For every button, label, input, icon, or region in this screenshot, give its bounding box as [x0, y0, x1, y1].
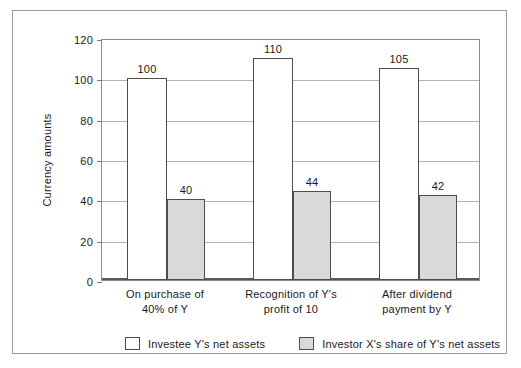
x-axis-category-line: Recognition of Y's [245, 287, 337, 302]
y-axis-tick-label: 100 [74, 74, 93, 86]
bar: 40 [167, 199, 205, 280]
x-axis-category-line: 40% of Y [126, 302, 204, 317]
y-axis-tick-label: 60 [80, 155, 93, 167]
bar: 100 [127, 78, 167, 280]
bar-value-label: 40 [180, 184, 193, 196]
y-axis-title-label: Currency amounts [41, 113, 53, 206]
x-axis-category-labels: On purchase of40% of YRecognition of Y's… [101, 287, 480, 323]
legend-swatch-icon [125, 337, 140, 350]
bar: 105 [379, 68, 419, 280]
plot-area: 020406080100120 100110105404442 [101, 39, 480, 281]
y-axis-tick [97, 282, 102, 283]
bar: 42 [419, 195, 457, 280]
figure-frame: Currency amounts 020406080100120 1001101… [12, 10, 507, 354]
y-axis-tick-label: 40 [80, 195, 93, 207]
bar-value-label: 44 [306, 176, 319, 188]
x-axis-category-label: On purchase of40% of Y [126, 287, 204, 317]
y-axis-tick-label: 20 [80, 236, 93, 248]
legend-item[interactable]: Investor X's share of Y's net assets [299, 337, 500, 350]
chart-legend: Investee Y's net assetsInvestor X's shar… [125, 337, 500, 350]
bar-value-label: 100 [138, 63, 157, 75]
y-axis-tick-label: 120 [74, 34, 93, 46]
y-axis-tick-label: 80 [80, 115, 93, 127]
x-axis-category-line: On purchase of [126, 287, 204, 302]
bar-value-label: 42 [432, 180, 445, 192]
x-axis-category-line: After dividend [382, 287, 452, 302]
x-axis-category-label: Recognition of Y'sprofit of 10 [245, 287, 337, 317]
legend-label: Investor X's share of Y's net assets [322, 338, 500, 350]
x-axis-category-label: After dividendpayment by Y [382, 287, 452, 317]
bar: 110 [253, 58, 293, 280]
chart-figure: Currency amounts 020406080100120 1001101… [0, 0, 521, 368]
legend-label: Investee Y's net assets [148, 338, 265, 350]
y-axis-title: Currency amounts [39, 39, 55, 281]
bar: 44 [293, 191, 331, 280]
legend-swatch-icon [299, 337, 314, 350]
bar-value-label: 110 [264, 43, 282, 55]
legend-item[interactable]: Investee Y's net assets [125, 337, 265, 350]
bar-value-label: 105 [390, 53, 409, 65]
y-axis-tick-label: 0 [87, 276, 93, 288]
x-axis-category-line: payment by Y [382, 302, 452, 317]
x-axis-category-line: profit of 10 [245, 302, 337, 317]
bars-layer: 100110105404442 [102, 40, 479, 280]
